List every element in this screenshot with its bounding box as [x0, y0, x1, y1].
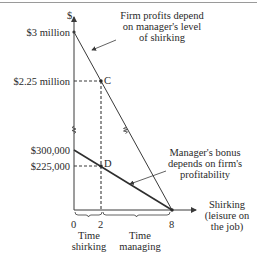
- point-d-marker: [99, 164, 102, 167]
- bonus-line: [74, 150, 172, 210]
- time-shirking-label: Time shirking: [64, 230, 114, 252]
- brace-time-shirking: [75, 212, 102, 217]
- point-c-marker: [99, 79, 102, 82]
- point-d-label: D: [104, 158, 112, 169]
- y-tick-3m: $3 million: [0, 27, 70, 38]
- y-axis-label: $: [67, 10, 72, 21]
- point-c-label: C: [104, 75, 111, 86]
- profit-annotation: Firm profits depend on manager's level o…: [112, 10, 212, 43]
- profit-line: [74, 32, 172, 210]
- y-tick-225k: $225,000: [0, 161, 70, 172]
- time-managing-label: Time managing: [112, 230, 168, 252]
- x-tick-8: 8: [169, 219, 174, 230]
- point-8-marker: [170, 208, 173, 211]
- brace-time-managing: [103, 212, 170, 217]
- x-axis-label: Shirking (leisure on the job): [196, 199, 257, 232]
- y-tick-2-25m: $2.25 million: [0, 76, 70, 87]
- bonus-annotation: Manager's bonus depends on firm's profit…: [162, 147, 248, 180]
- y-tick-300k: $300,000: [0, 145, 70, 156]
- bonus-note-arrow: [130, 171, 166, 184]
- x-tick-0: 0: [71, 219, 76, 230]
- x-tick-2: 2: [98, 219, 103, 230]
